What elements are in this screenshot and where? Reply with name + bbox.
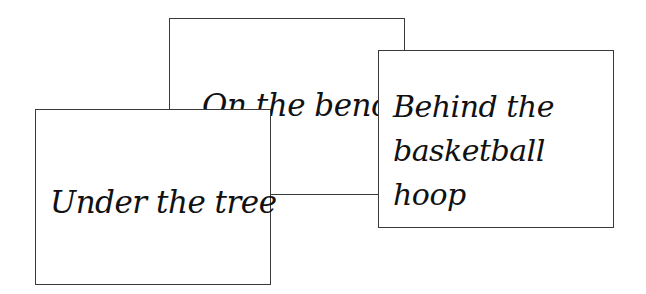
card-label: Under the tree bbox=[50, 180, 277, 224]
card-under-the-tree[interactable]: Under the tree bbox=[35, 109, 271, 285]
card-behind-the-basketball-hoop[interactable]: Behind the basketball hoop bbox=[378, 50, 614, 228]
card-label: Behind the basketball hoop bbox=[393, 85, 615, 217]
